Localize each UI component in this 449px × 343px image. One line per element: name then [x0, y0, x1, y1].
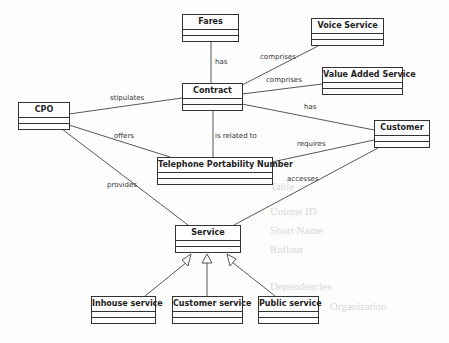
class-operations — [183, 105, 242, 110]
class-operations — [183, 36, 238, 41]
class-name: Telephone Portability Number — [158, 158, 272, 173]
class-name: Customer service — [173, 297, 242, 312]
assoc-label-is-related-to: is related to — [215, 132, 257, 140]
class-operations — [176, 247, 240, 252]
assoc-label-offers: offers — [114, 132, 134, 140]
assoc-label-provides: provides — [107, 181, 137, 189]
class-voice-service[interactable]: Voice Service — [311, 18, 384, 46]
class-inhouse-service[interactable]: Inhouse service — [91, 296, 156, 324]
class-fares[interactable]: Fares — [182, 14, 239, 42]
class-customer[interactable]: Customer — [374, 120, 430, 148]
class-operations — [158, 179, 272, 184]
assoc-label-stipulates: stipulates — [110, 94, 144, 102]
assoc-label-requires: requires — [297, 140, 326, 148]
assoc-label-comprises-vas: comprises — [266, 76, 302, 84]
class-name: Voice Service — [312, 19, 383, 34]
class-service[interactable]: Service — [175, 225, 241, 253]
class-operations — [173, 318, 242, 323]
class-telephone-portability-number[interactable]: Telephone Portability Number — [157, 157, 273, 185]
assoc-label-accesses: accesses — [287, 175, 319, 183]
assoc-label-has-fares: has — [215, 58, 227, 66]
class-name: Inhouse service — [92, 297, 155, 312]
class-name: Public service — [259, 297, 318, 312]
class-name: Contract — [183, 84, 242, 99]
class-operations — [323, 89, 402, 94]
assoc-label-has-customer: has — [304, 103, 316, 111]
class-operations — [375, 142, 429, 147]
class-operations — [312, 40, 383, 45]
class-value-added-service[interactable]: Value Added Service — [322, 67, 403, 95]
class-cpo[interactable]: CPO — [18, 102, 70, 130]
class-contract[interactable]: Contract — [182, 83, 243, 111]
class-name: CPO — [19, 103, 69, 118]
diagram-canvas: Table Unique ID Short Name Rollout Depen… — [0, 0, 449, 343]
class-operations — [259, 318, 318, 323]
class-operations — [92, 318, 155, 323]
class-name: Customer — [375, 121, 429, 136]
class-name: Fares — [183, 15, 238, 30]
class-public-service[interactable]: Public service — [258, 296, 319, 324]
class-name: Value Added Service — [323, 68, 402, 83]
class-customer-service[interactable]: Customer service — [172, 296, 243, 324]
assoc-label-comprises-voice: comprises — [260, 53, 296, 61]
class-operations — [19, 124, 69, 129]
class-name: Service — [176, 226, 240, 241]
